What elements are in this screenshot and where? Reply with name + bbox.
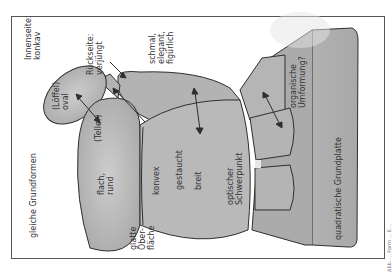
organic-form-shape <box>240 55 285 120</box>
label-loeffel-oval: (Löffel) oval <box>52 82 70 110</box>
label-konvex: konvex <box>152 166 161 195</box>
label-gleiche-grundformen: gleiche Grundformen <box>29 153 38 238</box>
figure-caption: Abb. ... Form ... E... <box>386 224 392 272</box>
label-quadratische-grundplatte: quadratische Grundplatte <box>334 137 343 240</box>
label-teller: (Teller) <box>94 115 103 142</box>
label-glatte-oberflaeche: glatte Ober- fläche <box>129 226 156 250</box>
label-gestaucht: gestaucht <box>175 150 184 190</box>
label-organische-umformung: organische Umformung? <box>289 56 307 108</box>
label-schmal-elegant: schmal, elegant, figürlich <box>148 31 175 64</box>
label-innenseite: Innenseite: konkav <box>24 15 42 60</box>
label-optischer-schwerpunkt: optischer Schwerpunkt <box>226 153 244 205</box>
label-breit: breit <box>194 172 203 190</box>
label-flach-rund: flach, rund <box>97 173 115 195</box>
label-rueckseite: Rückseite: verjüngt <box>86 34 104 75</box>
